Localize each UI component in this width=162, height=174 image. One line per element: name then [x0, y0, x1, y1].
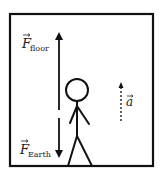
- stick-figure: [66, 79, 92, 166]
- right-leg: [77, 136, 92, 166]
- force-earth-arrow: [55, 118, 63, 158]
- svg-text:Earth: Earth: [28, 150, 51, 159]
- svg-text:floor: floor: [30, 44, 49, 53]
- left-arm: [70, 106, 77, 123]
- free-body-diagram: F floor F Earth a: [0, 0, 162, 174]
- head: [66, 79, 88, 101]
- force-floor-arrow: [55, 32, 63, 110]
- force-floor-label: F floor: [21, 34, 49, 54]
- force-earth-label: F Earth: [19, 140, 51, 160]
- right-arm: [77, 106, 89, 124]
- acceleration-label: a: [126, 95, 133, 109]
- left-leg: [68, 136, 77, 166]
- acceleration-arrow: [119, 82, 124, 121]
